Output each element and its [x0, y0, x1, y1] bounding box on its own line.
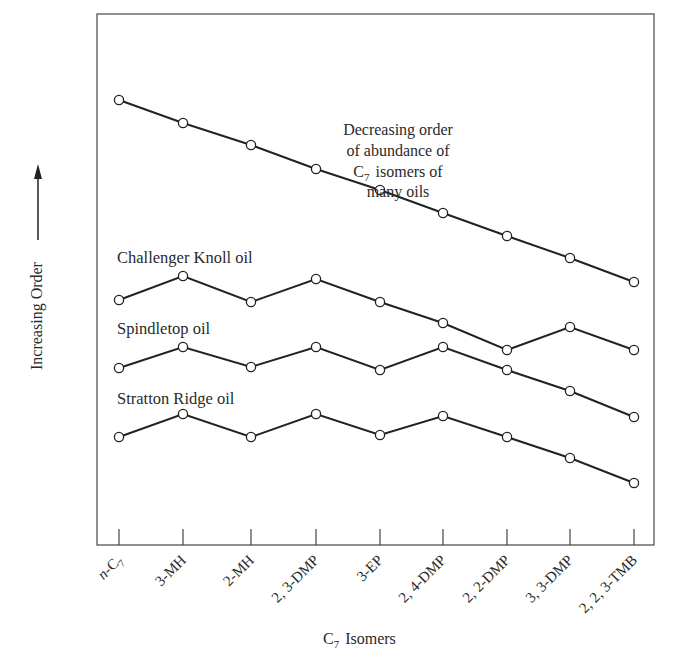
data-point-marker — [438, 342, 447, 351]
data-point-marker — [114, 95, 123, 104]
data-point-marker — [629, 277, 638, 286]
data-point-marker — [375, 297, 384, 306]
data-point-marker — [438, 411, 447, 420]
annotation-isomers-of: isomers of — [376, 163, 444, 180]
data-point-marker — [565, 253, 574, 262]
series-line — [119, 414, 634, 483]
data-point-marker — [114, 295, 123, 304]
data-point-marker — [502, 345, 511, 354]
x-axis-ticks — [119, 529, 634, 545]
annotation-line-1: Decreasing order — [343, 121, 453, 139]
x-tick-label: 2, 3-DMP — [268, 552, 322, 606]
data-point-marker — [311, 409, 320, 418]
x-tick-label: 3-EP — [354, 552, 387, 585]
y-axis-label: Increasing Order — [28, 261, 46, 370]
series-stratton-ridge — [114, 409, 638, 487]
x-tick-label: 2, 2, 3-TMB — [576, 552, 640, 616]
x-tick-label: 3-MH — [152, 552, 189, 589]
x-axis-label-subscript: 7 — [334, 638, 340, 650]
data-point-marker — [629, 345, 638, 354]
data-point-marker — [178, 342, 187, 351]
series-line — [119, 276, 634, 350]
data-point-marker — [311, 274, 320, 283]
data-point-marker — [565, 322, 574, 331]
series-label-challenger-knoll: Challenger Knoll oil — [117, 248, 253, 267]
data-point-marker — [438, 318, 447, 327]
data-point-marker — [311, 164, 320, 173]
series-spindletop — [114, 342, 638, 421]
x-tick-label: 2, 4-DMP — [395, 552, 449, 606]
x-axis-label-isomers: Isomers — [345, 630, 396, 647]
data-point-marker — [114, 363, 123, 372]
top-series-annotation: Decreasing order of abundance of C7isome… — [343, 121, 453, 201]
data-point-marker — [438, 208, 447, 217]
x-tick-label: n-C7 — [94, 552, 127, 585]
data-point-marker — [114, 432, 123, 441]
x-axis-label-c: C — [323, 630, 334, 647]
data-point-marker — [565, 453, 574, 462]
x-tick-label: 2-MH — [220, 552, 257, 589]
annotation-line-4: many oils — [367, 183, 430, 201]
x-tick-label: 3, 3-DMP — [522, 552, 576, 606]
x-axis-tick-labels: n-C73-MH2-MH2, 3-DMP3-EP2, 4-DMP2, 2-DMP… — [94, 552, 640, 616]
annotation-c: C — [353, 163, 364, 180]
data-point-marker — [565, 386, 574, 395]
data-point-marker — [375, 365, 384, 374]
data-point-marker — [502, 231, 511, 240]
series-challenger-knoll — [114, 271, 638, 354]
data-point-marker — [629, 478, 638, 487]
y-axis-label-group: Increasing Order — [28, 164, 46, 370]
annotation-line-2: of abundance of — [346, 142, 450, 159]
chart-figure: Challenger Knoll oil Spindletop oil Stra… — [0, 0, 680, 672]
data-point-marker — [246, 297, 255, 306]
up-arrow-icon — [34, 164, 42, 179]
series-label-spindletop: Spindletop oil — [117, 319, 210, 338]
annotation-line-3: C7isomers of — [353, 163, 443, 183]
data-point-marker — [178, 409, 187, 418]
data-point-marker — [178, 271, 187, 280]
series-label-stratton-ridge: Stratton Ridge oil — [117, 389, 235, 408]
data-point-marker — [502, 365, 511, 374]
data-point-marker — [311, 342, 320, 351]
data-point-marker — [246, 362, 255, 371]
data-point-marker — [629, 412, 638, 421]
x-tick-label: 2, 2-DMP — [459, 552, 513, 606]
x-axis-label: C7Isomers — [323, 630, 396, 650]
data-point-marker — [178, 118, 187, 127]
data-point-marker — [246, 432, 255, 441]
data-point-marker — [502, 432, 511, 441]
data-point-marker — [375, 430, 384, 439]
annotation-c-subscript: 7 — [364, 171, 370, 183]
data-point-marker — [246, 140, 255, 149]
